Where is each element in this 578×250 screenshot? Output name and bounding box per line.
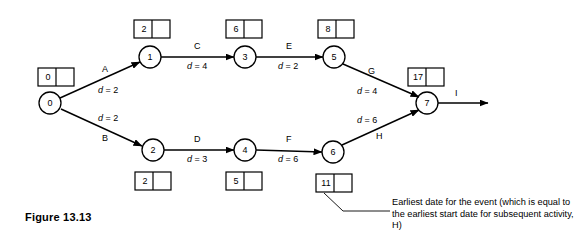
activity-label-f: F (286, 134, 292, 144)
annotation-leader-line (324, 193, 390, 211)
activity-label-d: D (194, 134, 201, 144)
event-node-1-label: 1 (140, 52, 160, 62)
event-node-6-label: 6 (323, 147, 343, 157)
event-node-5-label: 5 (324, 52, 344, 62)
earliest-date-node-1: 2 (135, 24, 153, 34)
event-node-0-label: 0 (40, 98, 60, 108)
earliest-date-node-4: 5 (227, 176, 245, 186)
annotation-text: Earliest date for the event (which is eq… (392, 197, 578, 232)
event-node-7-label: 7 (417, 98, 437, 108)
activity-label-c: C (194, 41, 201, 51)
event-node-4-label: 4 (235, 145, 255, 155)
figure-caption: Figure 13.13 (25, 211, 92, 223)
duration-label-d: d = 3 (187, 154, 207, 164)
earliest-date-node-7: 17 (409, 72, 427, 82)
earliest-date-node-3: 6 (227, 24, 245, 34)
earliest-date-node-6: 11 (317, 178, 335, 188)
duration-label-a: d = 2 (98, 85, 118, 95)
duration-label-c: d = 4 (187, 61, 207, 71)
activity-label-b: B (102, 133, 108, 143)
activity-label-h: H (376, 131, 383, 141)
duration-label-e: d = 2 (278, 61, 298, 71)
duration-label-f: d = 6 (278, 154, 298, 164)
duration-label-b: d = 2 (98, 113, 118, 123)
earliest-date-node-5: 8 (319, 24, 337, 34)
earliest-date-node-0: 0 (39, 72, 57, 82)
activity-label-a: A (102, 64, 108, 74)
activity-label-e: E (286, 41, 292, 51)
earliest-date-node-2: 2 (136, 176, 154, 186)
event-node-3-label: 3 (235, 52, 255, 62)
duration-label-g: d = 4 (357, 86, 377, 96)
duration-label-h: d = 6 (357, 115, 377, 125)
activity-arrow-f (256, 150, 322, 152)
activity-label-i: I (455, 88, 458, 98)
activity-label-g: G (368, 66, 375, 76)
event-node-2-label: 2 (143, 145, 163, 155)
